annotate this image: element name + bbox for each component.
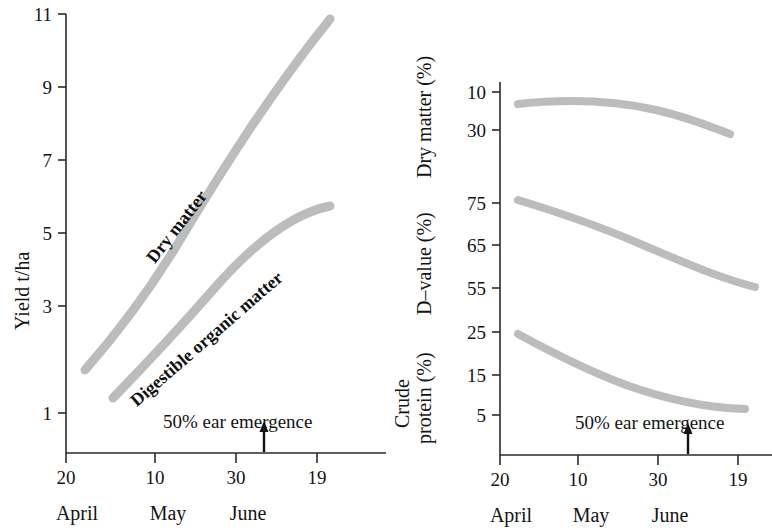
right-chart-plot — [386, 0, 772, 531]
right-x-tick-10: 10 — [558, 470, 598, 489]
right-y-tick-crude-protein-25: 25 — [442, 323, 486, 342]
right-y-tick-crude-protein-15: 15 — [442, 366, 486, 385]
right-curve-d-value — [518, 200, 755, 287]
left-curve-digestible-organic-matter — [113, 206, 330, 398]
right-ear-emergence-annotation: 50% ear emergence — [575, 413, 724, 432]
right-y-tick-marks-crude-protein — [492, 332, 500, 415]
right-month-april: April — [476, 505, 546, 525]
right-y-tick-marks-dry-matter — [492, 92, 500, 130]
left-y-tick-7: 7 — [8, 151, 52, 170]
right-y-axis-title-dry-matter: Dry matter (%) — [414, 56, 434, 178]
right-y-tick-dry-matter-30: 30 — [442, 121, 486, 140]
right-x-tick-20: 20 — [480, 470, 520, 489]
right-curve-dry-matter — [518, 101, 730, 134]
left-axis-lines — [66, 14, 386, 453]
left-month-april: April — [42, 503, 112, 523]
right-y-tick-dry-matter-10: 10 — [442, 83, 486, 102]
left-curve-dry-matter — [85, 19, 330, 370]
left-y-tick-5: 5 — [8, 224, 52, 243]
right-y-tick-marks-d-value — [492, 203, 500, 288]
two-panel-grass-growth-figure: Yield t/ha 11 9 7 5 3 1 20 10 30 19 Apri… — [0, 0, 772, 531]
right-x-tick-marks — [500, 455, 738, 465]
left-y-tick-11: 11 — [8, 5, 52, 24]
right-y-tick-d-value-65: 65 — [442, 236, 486, 255]
left-y-axis-title: Yield t/ha — [12, 252, 32, 330]
left-month-may: May — [133, 503, 203, 523]
left-ear-emergence-annotation: 50% ear emergence — [163, 412, 312, 431]
left-chart-plot — [0, 0, 386, 531]
right-y-tick-d-value-55: 55 — [442, 279, 486, 298]
left-month-june: June — [213, 503, 283, 523]
right-curve-crude-protein — [518, 334, 745, 409]
left-y-tick-marks — [58, 14, 66, 413]
right-x-tick-19: 19 — [718, 470, 758, 489]
left-x-tick-30: 30 — [216, 468, 256, 487]
right-x-tick-30: 30 — [638, 470, 678, 489]
right-month-may: May — [556, 505, 626, 525]
left-x-tick-19: 19 — [297, 468, 337, 487]
left-y-tick-1: 1 — [8, 404, 52, 423]
left-x-tick-marks — [66, 453, 317, 463]
right-chart-panel: Dry matter (%) D–value (%) Crude protein… — [386, 0, 772, 531]
left-chart-panel: Yield t/ha 11 9 7 5 3 1 20 10 30 19 Apri… — [0, 0, 386, 531]
right-y-tick-crude-protein-5: 5 — [442, 406, 486, 425]
right-y-axis-title-d-value: D–value (%) — [414, 212, 434, 315]
left-x-tick-20: 20 — [46, 468, 86, 487]
right-y-axis-title-protein: protein (%) — [414, 352, 434, 444]
left-y-tick-9: 9 — [8, 78, 52, 97]
right-axis-lines — [500, 82, 772, 455]
left-y-tick-3: 3 — [8, 297, 52, 316]
left-x-tick-10: 10 — [135, 468, 175, 487]
right-month-june: June — [635, 505, 705, 525]
right-y-axis-title-crude: Crude — [392, 379, 412, 428]
right-y-tick-d-value-75: 75 — [442, 194, 486, 213]
